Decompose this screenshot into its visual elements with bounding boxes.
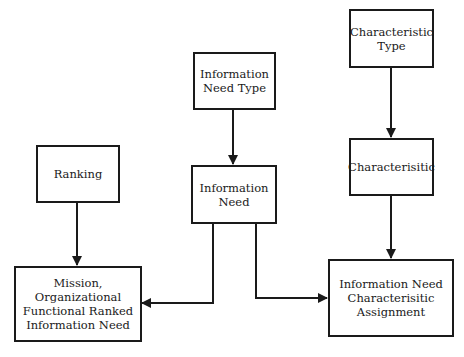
node-mission-ranked-need: Mission, Organizational Functional Ranke… <box>14 266 142 342</box>
node-need-characteristic-assignment: Information Need Characterisitic Assignm… <box>328 259 454 337</box>
node-information-need: Information Need <box>191 165 277 224</box>
node-characterisitic: Characterisitic <box>349 138 434 196</box>
node-ranking: Ranking <box>36 145 120 203</box>
node-information-need-type: Information Need Type <box>193 52 276 110</box>
edge-need-to-assignment <box>256 223 327 298</box>
node-characteristic-type: Characteristic Type <box>349 9 434 68</box>
diagram-canvas: Characteristic Type Information Need Typ… <box>0 0 464 357</box>
edge-need-to-mission <box>142 223 213 303</box>
